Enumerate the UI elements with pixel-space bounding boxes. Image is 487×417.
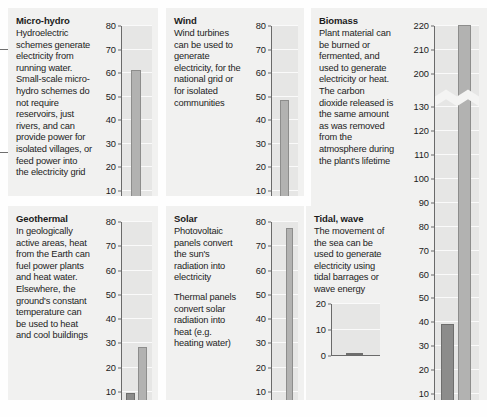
y-tick-label: 70 [419, 246, 431, 256]
y-tick-label: 90 [419, 198, 431, 208]
y-tick-label: 50 [106, 92, 118, 102]
plot-area [121, 26, 152, 196]
panel-title-solar: Solar [174, 213, 242, 225]
y-tick-label: 50 [256, 92, 268, 102]
plot-area [271, 26, 298, 196]
y-tick-label: 10 [256, 186, 268, 196]
gridline [122, 221, 152, 222]
panel-solar: Solar Photovoltaic panels convert the su… [166, 206, 304, 400]
chart-area: 01020304050607080 [118, 222, 152, 400]
paragraph: Thermal panels convert solar radiation i… [174, 292, 242, 350]
y-tick-label: 40 [419, 317, 431, 327]
figure-root: Micro-hydro Hydroelectric schemes genera… [0, 0, 487, 417]
panel-body-solar: Photovoltaic panels convert the sun's ra… [174, 226, 242, 350]
chart-solar: 01020304050607080 [246, 206, 304, 400]
panel-geothermal: Geothermal In geologically active areas,… [8, 206, 158, 400]
y-tick-label: 30 [256, 139, 268, 149]
panel-title-wind: Wind [174, 15, 242, 27]
y-tick-label: 10 [316, 325, 328, 335]
panel-micro-hydro: Micro-hydro Hydroelectric schemes genera… [8, 8, 158, 196]
y-tick-label: 70 [256, 241, 268, 251]
paragraph: The movement of the sea can be used to g… [314, 226, 386, 296]
panel-title-biomass: Biomass [319, 15, 395, 27]
panel-tidal-wave: Tidal, wave The movement of the sea can … [306, 206, 390, 400]
bar [286, 228, 294, 400]
y-tick-label: 20 [106, 162, 118, 172]
panel-text-geothermal: Geothermal In geologically active areas,… [8, 206, 96, 400]
bar [131, 70, 141, 196]
panel-body-micro-hydro: Hydroelectric schemes generate electrici… [16, 28, 92, 179]
bar [138, 347, 147, 400]
bar [126, 393, 135, 400]
y-tick-label: 60 [256, 266, 268, 276]
chart-biomass: 0102030405060708090100110120130200210220 [399, 8, 487, 400]
y-tick-label: 60 [256, 68, 268, 78]
y-tick-label: 10 [106, 387, 118, 397]
y-tick-label: 30 [106, 338, 118, 348]
y-tick-label: 10 [419, 389, 431, 399]
y-tick-label: 80 [106, 217, 118, 227]
y-tick-label: 110 [414, 150, 431, 160]
y-tick-label: 40 [106, 314, 118, 324]
gridline [272, 221, 298, 222]
chart-area: 01020304050607080 [268, 26, 298, 196]
gridline [122, 49, 152, 50]
y-tick-label: 10 [256, 387, 268, 397]
y-tick-label: 40 [256, 314, 268, 324]
y-tick-label: 20 [419, 365, 431, 375]
chart-geothermal: 01020304050607080 [96, 206, 158, 400]
y-tick-label: 40 [256, 115, 268, 125]
plot-area [331, 304, 380, 356]
gridline [332, 303, 380, 304]
paragraph: Plant material can be burned or fermente… [319, 28, 395, 167]
bar [458, 25, 471, 400]
paragraph: Photovoltaic panels convert the sun's ra… [174, 226, 242, 284]
y-tick-label: 80 [419, 222, 431, 232]
y-tick-label: 20 [106, 363, 118, 373]
y-tick-label: 60 [419, 270, 431, 280]
gridline [122, 25, 152, 26]
y-tick-label: 80 [256, 217, 268, 227]
y-tick-label: 70 [106, 45, 118, 55]
gridline [272, 72, 298, 73]
chart-wind: 01020304050607080 [246, 8, 304, 196]
gridline [122, 318, 152, 319]
gridline [122, 294, 152, 295]
paragraph: In geologically active areas, heat from … [16, 226, 92, 342]
gridline [122, 245, 152, 246]
y-tick-label: 40 [106, 115, 118, 125]
chart-area: 0102030405060708090100110120130200210220 [431, 26, 479, 400]
panel-text-wind: Wind Wind turbines can be used to genera… [166, 8, 246, 196]
y-tick-label: 130 [413, 102, 431, 112]
panel-text-micro-hydro: Micro-hydro Hydroelectric schemes genera… [8, 8, 96, 196]
plot-area [271, 222, 298, 400]
panel-wind: Wind Wind turbines can be used to genera… [166, 8, 304, 196]
y-tick-label: 50 [256, 290, 268, 300]
y-tick-label: 60 [106, 266, 118, 276]
bar [280, 100, 289, 196]
plot-area [121, 222, 152, 400]
y-tick-label: 50 [106, 290, 118, 300]
y-tick-label: 70 [106, 241, 118, 251]
panel-body-biomass: Plant material can be burned or fermente… [319, 28, 395, 167]
y-tick-label: 50 [419, 293, 431, 303]
y-tick-label: 20 [256, 363, 268, 373]
panel-title-tidal-wave: Tidal, wave [314, 213, 386, 225]
gridline [272, 25, 298, 26]
panel-body-tidal-wave: The movement of the sea can be used to g… [314, 226, 386, 296]
y-tick-label: 30 [256, 338, 268, 348]
y-tick-label: 60 [106, 68, 118, 78]
chart-area: 01020304050607080 [268, 222, 298, 400]
paragraph: Hydroelectric schemes generate electrici… [16, 28, 92, 179]
gridline [122, 270, 152, 271]
y-tick-label: 70 [256, 45, 268, 55]
y-tick-label: 20 [316, 299, 328, 309]
y-tick-label: 80 [256, 21, 268, 31]
panel-text-solar: Solar Photovoltaic panels convert the su… [166, 206, 246, 400]
y-tick-label: 30 [106, 139, 118, 149]
y-tick-label: 30 [419, 341, 431, 351]
plot-area [434, 26, 479, 400]
y-tick-label: 0 [321, 351, 328, 361]
gridline [272, 49, 298, 50]
panel-title-micro-hydro: Micro-hydro [16, 15, 92, 27]
